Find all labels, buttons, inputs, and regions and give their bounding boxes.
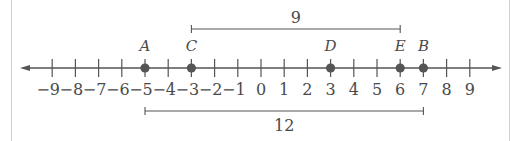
point-dot — [419, 63, 428, 72]
point-dot — [326, 63, 335, 72]
tick-label: −6 — [106, 80, 130, 99]
tick-label: 2 — [302, 80, 312, 99]
tick-label: 7 — [418, 80, 428, 99]
point-label: D — [324, 37, 337, 55]
tick-label: −7 — [83, 80, 107, 99]
tick-label: 8 — [442, 80, 452, 99]
tick-label: −5 — [129, 80, 153, 99]
tick-label: −4 — [152, 80, 176, 99]
point-label: C — [186, 37, 198, 55]
number-line-diagram: −9−8−7−6−5−4−3−2−10123456789ACDEB912 — [0, 0, 522, 141]
point-label: A — [138, 37, 151, 55]
left-arrow-icon — [20, 65, 30, 71]
tick-label: 3 — [326, 80, 336, 99]
tick-label: 5 — [372, 80, 382, 99]
tick-label: 9 — [465, 80, 475, 99]
tick-label: 4 — [349, 80, 359, 99]
distance-label: 9 — [291, 8, 301, 27]
point-dot — [140, 63, 149, 72]
tick-label: −8 — [60, 80, 84, 99]
tick-label: −1 — [222, 80, 246, 99]
tick-label: 1 — [279, 80, 289, 99]
distance-label: 12 — [274, 116, 294, 135]
point-dot — [187, 63, 196, 72]
point-label: E — [394, 37, 406, 55]
tick-label: 6 — [395, 80, 405, 99]
point-dot — [396, 63, 405, 72]
right-arrow-icon — [492, 65, 502, 71]
point-label: B — [417, 37, 429, 55]
tick-label: −2 — [199, 80, 223, 99]
tick-label: −3 — [176, 80, 200, 99]
tick-label: 0 — [256, 80, 266, 99]
tick-label: −9 — [36, 80, 60, 99]
